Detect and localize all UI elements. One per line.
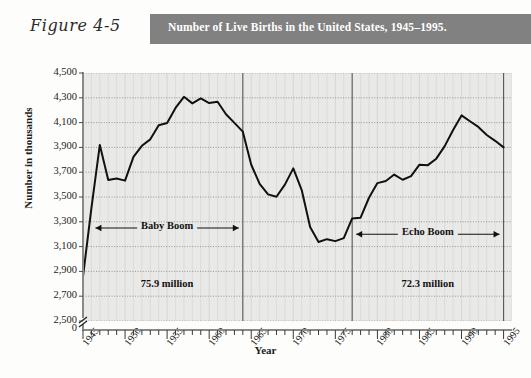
y-tick-label: 2,700 xyxy=(21,289,77,300)
figure-number-label: Figure 4-5 xyxy=(30,16,121,35)
annotation-echo-boom-total: 72.3 million xyxy=(368,278,488,289)
annotation-baby-boom: Baby Boom xyxy=(107,220,227,231)
figure-title: Number of Live Births in the United Stat… xyxy=(168,21,447,33)
y-tick-label: 3,700 xyxy=(21,165,77,176)
y-tick-label: 3,900 xyxy=(21,140,77,151)
y-tick-label: 4,100 xyxy=(21,116,77,127)
y-tick-label: 3,300 xyxy=(21,215,77,226)
chart-frame: Number in thousands Year 4,5004,3004,100… xyxy=(0,56,531,378)
figure-header: Number of Live Births in the United Stat… xyxy=(0,14,531,44)
y-tick-label: 4,300 xyxy=(21,91,77,102)
y-axis-zero-label: 0 xyxy=(21,322,77,333)
y-tick-label: 3,100 xyxy=(21,240,77,251)
y-tick-label: 4,500 xyxy=(21,66,77,77)
annotation-echo-boom: Echo Boom xyxy=(368,226,488,237)
y-tick-label: 2,900 xyxy=(21,264,77,275)
annotation-baby-boom-total: 75.9 million xyxy=(107,278,227,289)
figure-title-band: Number of Live Births in the United Stat… xyxy=(150,14,531,44)
y-tick-label: 3,500 xyxy=(21,190,77,201)
x-axis-title: Year xyxy=(0,344,531,356)
